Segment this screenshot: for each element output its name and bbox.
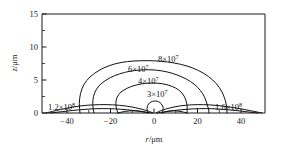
y-axis-ticks	[42, 14, 47, 113]
contour-label-3e7: 3×107	[147, 89, 168, 99]
contour-label-1-6e8-base: 10	[230, 102, 239, 112]
contour-label-1-6e8-mant: 1.6	[215, 102, 226, 112]
contour-label-3e7-base: 10	[156, 89, 165, 99]
y-tick-label-10: 10	[30, 42, 39, 52]
x-axis-title-unit: /μm	[149, 134, 163, 144]
contour-label-8e7: 8×107	[158, 54, 179, 64]
contour-label-6e7: 6×107	[128, 64, 149, 74]
svg-text:3×107: 3×107	[147, 89, 168, 99]
x-axis-title: r/μm	[146, 134, 163, 144]
svg-text:8×107: 8×107	[158, 54, 179, 64]
contour-label-6e7-exp: 7	[146, 64, 149, 70]
svg-text:4×107: 4×107	[138, 76, 159, 86]
contour-label-1-2e8-base: 10	[63, 102, 72, 112]
contour-label-1-2e8-mant: 1.2	[48, 102, 59, 112]
contour-plot-figure: 0 5 10 15 −40 −20 0 20 40 r/μm z/μm	[0, 0, 282, 157]
y-axis-title-unit: /μm	[9, 54, 19, 68]
svg-text:6×107: 6×107	[128, 64, 149, 74]
contour-label-4e7: 4×107	[138, 76, 159, 86]
x-tick-label-40: 40	[237, 116, 246, 126]
x-tick-label-neg20: −20	[104, 116, 117, 126]
x-tick-labels: −40 −20 0 20 40	[60, 116, 245, 126]
contour-label-8e7-base: 10	[167, 54, 176, 64]
x-tick-label-20: 20	[193, 116, 202, 126]
svg-text:1.2×108: 1.2×108	[48, 102, 75, 112]
contour-label-4e7-exp: 7	[156, 76, 159, 82]
x-tick-label-neg40: −40	[60, 116, 73, 126]
contour-label-6e7-base: 10	[137, 64, 146, 74]
svg-text:1.6×108: 1.6×108	[215, 102, 242, 112]
y-tick-label-15: 15	[30, 9, 39, 19]
y-tick-label-5: 5	[34, 75, 38, 85]
contour-label-3e7-exp: 7	[165, 89, 168, 95]
contour-label-1-2e8: 1.2×108	[48, 102, 75, 112]
contour-label-1-6e8: 1.6×108	[215, 102, 242, 112]
contour-label-4e7-base: 10	[147, 76, 156, 86]
y-axis-title: z/μm	[9, 54, 19, 72]
svg-text:r/μm: r/μm	[146, 134, 163, 144]
contour-label-1-6e8-exp: 8	[239, 102, 242, 108]
x-tick-label-0: 0	[152, 116, 156, 126]
contour-8e7	[79, 61, 227, 113]
plot-canvas: 0 5 10 15 −40 −20 0 20 40 r/μm z/μm	[0, 0, 282, 157]
y-tick-label-0: 0	[34, 108, 38, 118]
contour-label-1-2e8-exp: 8	[72, 102, 75, 108]
svg-text:z/μm: z/μm	[9, 54, 19, 72]
contour-label-8e7-exp: 7	[176, 54, 179, 60]
y-tick-labels: 0 5 10 15	[30, 9, 39, 118]
